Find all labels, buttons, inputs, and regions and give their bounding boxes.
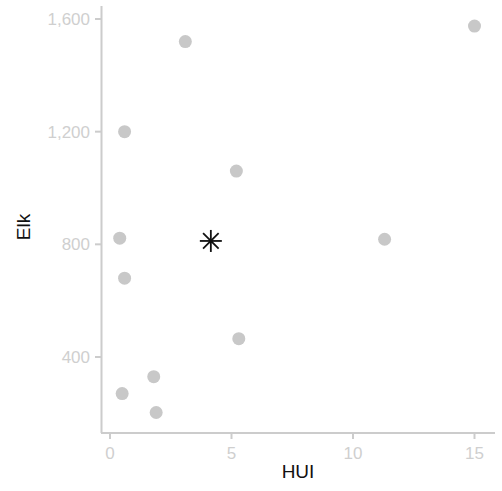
y-tick-label: 1,600 [47,10,90,29]
x-tick-label: 15 [465,444,484,463]
data-point [179,35,192,48]
y-tick-label: 1,200 [47,123,90,142]
y-axis: 4008001,2001,600 [47,6,101,433]
x-tick-label: 5 [227,444,236,463]
data-point [116,387,129,400]
scatter-chart: 4008001,2001,600 051015 HUI Elk [0,0,502,491]
y-axis-title: Elk [13,213,34,240]
data-points [113,20,481,419]
data-point [118,272,131,285]
data-point [150,406,163,419]
data-point [232,332,245,345]
data-point [378,233,391,246]
x-axis-title: HUI [282,461,315,482]
y-tick-label: 800 [62,235,90,254]
y-tick-label: 400 [62,348,90,367]
data-point [147,370,160,383]
x-ticks: 051015 [105,433,484,463]
x-axis: 051015 [101,433,495,463]
x-tick-label: 0 [105,444,114,463]
y-ticks: 4008001,2001,600 [47,10,101,367]
data-point [230,165,243,178]
data-point [113,232,126,245]
data-point [118,125,131,138]
asterisk-marker-icon [200,230,222,252]
x-tick-label: 10 [344,444,363,463]
data-point [468,20,481,33]
